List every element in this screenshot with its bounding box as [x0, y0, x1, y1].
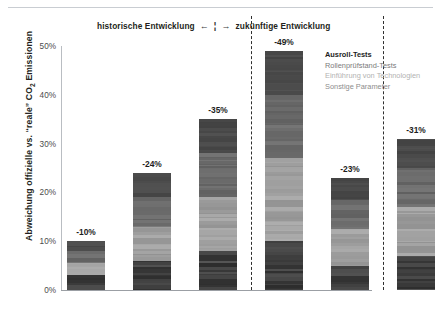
bar-stripe: [67, 289, 105, 290]
y-axis-tick-label: 40%: [40, 90, 56, 99]
bar-segment[interactable]: [397, 168, 435, 207]
bar-segment[interactable]: [397, 256, 435, 290]
top-divider-rule: [8, 7, 433, 8]
bar-stripe: [397, 289, 435, 290]
stacked-bar[interactable]: [397, 139, 435, 290]
bar-segment[interactable]: [67, 251, 105, 263]
period-separator: ¦: [214, 21, 217, 31]
legend-item[interactable]: Einführung von Technologien: [325, 71, 441, 82]
bar-value-label: -23%: [340, 164, 360, 174]
y-axis-title: Abweichung offizielle vs. “reale” CO2 Em…: [24, 1, 36, 271]
bar-value-label: -10%: [76, 227, 96, 237]
bar-segment[interactable]: [331, 229, 369, 266]
bar-stripe: [331, 289, 369, 290]
bar-segment[interactable]: [265, 241, 303, 290]
legend: Ausroll-TestsRollenprüfstand-TestsEinfüh…: [325, 50, 441, 92]
bar-segment[interactable]: [133, 197, 171, 226]
bar-segment[interactable]: [67, 275, 105, 290]
bar-segment[interactable]: [67, 263, 105, 275]
bar-segment[interactable]: [199, 153, 237, 197]
bar-segment[interactable]: [265, 51, 303, 95]
stacked-bar[interactable]: [67, 241, 105, 290]
bar-value-label: -49%: [274, 37, 294, 47]
bar-value-label: -35%: [208, 105, 228, 115]
y-axis-tick-label: 10%: [40, 237, 56, 246]
bar-segment[interactable]: [331, 266, 369, 290]
arrow-right-icon: →: [221, 21, 230, 31]
bar-segment[interactable]: [133, 227, 171, 261]
bar-stripe: [199, 287, 237, 290]
y-axis-tick-label: 20%: [40, 188, 56, 197]
bar-value-label: -24%: [142, 159, 162, 169]
bar-segment[interactable]: [199, 119, 237, 153]
bar-stripe: [265, 289, 303, 290]
y-axis-tick-label: 0%: [44, 286, 56, 295]
legend-item[interactable]: Ausroll-Tests: [325, 50, 441, 61]
y-axis-title-subscript: 2: [29, 83, 36, 87]
bar-segment[interactable]: [199, 197, 237, 251]
bar-segment[interactable]: [133, 173, 171, 197]
bar-segment[interactable]: [397, 139, 435, 168]
historic-period-label: historische Entwicklung: [97, 21, 195, 31]
y-axis-title-pre: Abweichung offizielle vs. “reale” CO: [24, 87, 34, 241]
y-axis-title-post: Emissionen: [24, 31, 34, 83]
bar-segment[interactable]: [265, 95, 303, 158]
bar-segment[interactable]: [397, 207, 435, 256]
legend-item[interactable]: Rollenprüfstand-Tests: [325, 61, 441, 72]
bar-stripe: [133, 289, 171, 290]
legend-item[interactable]: Sonstige Parameter: [325, 82, 441, 93]
stacked-bar[interactable]: [199, 119, 237, 290]
bar-segment[interactable]: [133, 261, 171, 290]
stacked-bar[interactable]: [331, 178, 369, 290]
bar-segment[interactable]: [265, 158, 303, 241]
stacked-bar[interactable]: [265, 51, 303, 290]
arrow-left-icon: ←: [200, 21, 209, 31]
bar-value-label: -31%: [406, 125, 426, 135]
bar-segment[interactable]: [331, 200, 369, 229]
y-axis-tick-label: 30%: [40, 139, 56, 148]
chart-header-band: historische Entwicklung ← ¦ → zukünftige…: [0, 18, 441, 34]
y-axis-line: [61, 46, 62, 290]
bar-segment[interactable]: [331, 178, 369, 200]
x-axis-line: [61, 290, 372, 291]
y-axis-tick-label: 50%: [40, 42, 56, 51]
period-header: historische Entwicklung ← ¦ → zukünftige…: [97, 18, 337, 34]
bar-segment[interactable]: [199, 251, 237, 290]
stacked-bar[interactable]: [133, 173, 171, 290]
future-period-label: zukünftige Entwicklung: [236, 21, 331, 31]
period-divider-line: [251, 16, 252, 290]
bar-segment[interactable]: [67, 241, 105, 251]
